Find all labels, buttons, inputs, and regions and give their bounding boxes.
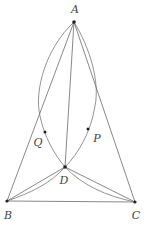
arc-AQD xyxy=(38,22,74,167)
point-C xyxy=(133,200,136,203)
segment-AD xyxy=(65,22,74,167)
label-C: C xyxy=(132,210,140,221)
segment-BD xyxy=(7,167,65,201)
label-B: B xyxy=(4,210,12,221)
geometry-figure: A B C D P Q xyxy=(0,0,152,234)
segment-BC xyxy=(7,201,135,202)
figure-canvas xyxy=(0,0,152,234)
point-Q xyxy=(44,131,47,134)
point-P xyxy=(87,128,90,131)
point-D xyxy=(63,165,67,169)
label-D: D xyxy=(60,175,69,186)
point-B xyxy=(5,199,8,202)
label-P: P xyxy=(93,133,100,144)
label-A: A xyxy=(71,4,79,15)
point-A xyxy=(72,20,76,24)
segment-AC xyxy=(74,22,135,202)
label-Q: Q xyxy=(33,137,42,148)
